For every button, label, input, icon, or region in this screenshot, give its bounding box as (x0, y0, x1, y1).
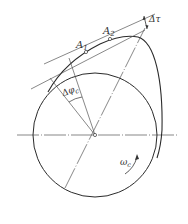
omega-arrowhead (135, 154, 139, 160)
inclined-center-line (65, 28, 145, 188)
label-a2: A2 (102, 25, 115, 38)
label-omega: ωc (120, 157, 131, 169)
label-delta-tau: Δτ (148, 14, 161, 24)
radial-line-2 (69, 58, 95, 135)
tangent-line-a2 (44, 14, 155, 64)
cam-diagram: A1 A2 Δτ Δφc ωc (0, 0, 188, 224)
delta-phi-arc (69, 97, 82, 102)
tangent-line-a1 (31, 30, 145, 89)
label-a1: A1 (75, 39, 88, 52)
delta-tau-arrow-top (143, 16, 146, 20)
center-point (93, 133, 96, 136)
delta-tau-arrow-bottom (146, 25, 149, 29)
